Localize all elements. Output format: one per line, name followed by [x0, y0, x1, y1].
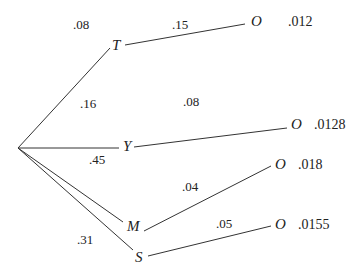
branch-line-second	[148, 226, 271, 256]
second-probability: .05	[216, 217, 232, 231]
second-probability: .08	[183, 95, 199, 109]
joint-probability: .0128	[314, 118, 346, 132]
node-label: S	[135, 250, 143, 264]
branch-line-first	[18, 148, 133, 250]
outcome-label: O	[275, 217, 286, 231]
tree-lines	[0, 0, 347, 278]
second-probability: .15	[172, 18, 188, 32]
node-label: T	[112, 38, 120, 52]
outcome-label: O	[251, 14, 262, 28]
joint-probability: .0155	[298, 218, 330, 232]
joint-probability: .012	[288, 15, 313, 29]
node-label: Y	[123, 139, 131, 153]
node-label: M	[127, 219, 140, 233]
first-probability: .08	[73, 18, 89, 32]
first-probability: .31	[77, 233, 93, 247]
branch-line-second	[134, 128, 287, 147]
outcome-label: O	[275, 157, 286, 171]
branch-line-first	[18, 148, 123, 222]
branch-line-second	[144, 166, 271, 231]
joint-probability: .018	[298, 158, 323, 172]
first-probability: .16	[80, 97, 96, 111]
outcome-label: O	[291, 117, 302, 131]
second-probability: .04	[182, 180, 198, 194]
first-probability: .45	[89, 153, 105, 167]
